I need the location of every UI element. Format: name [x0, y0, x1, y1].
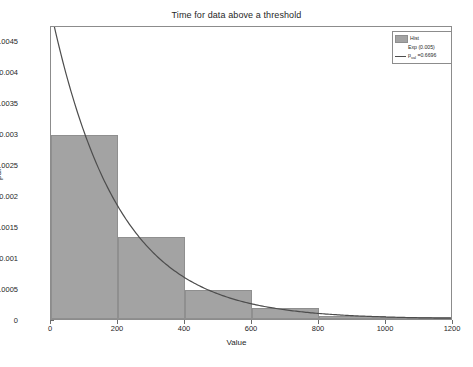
- y-axis-tick-label: 0.0005: [0, 285, 18, 294]
- legend-label-pvalue: pval =0.6696: [408, 51, 436, 62]
- legend-pvalue-suffix: =0.6696: [416, 52, 436, 58]
- x-axis-tick-label: 1200: [444, 324, 461, 333]
- plot-area: [50, 26, 452, 320]
- x-axis-tick-label: 0: [48, 324, 52, 333]
- y-axis-tick-label: 0.0015: [0, 223, 18, 232]
- x-axis-tick-mark: [117, 320, 118, 324]
- x-axis-tick-mark: [318, 320, 319, 324]
- legend-line-icon: [395, 56, 406, 57]
- y-axis-tick-label: 0.002: [0, 192, 18, 201]
- x-axis-tick-mark: [385, 320, 386, 324]
- page-title: Time for data above a threshold: [0, 10, 473, 20]
- x-axis-tick-mark: [452, 320, 453, 324]
- y-axis-tick-label: 0.0035: [0, 99, 18, 108]
- x-axis-tick-label: 200: [111, 324, 124, 333]
- y-axis-label: pdf: [0, 169, 3, 180]
- legend-item-hist: Hist: [395, 34, 449, 43]
- x-axis-tick-label: 400: [178, 324, 191, 333]
- x-axis-tick-label: 600: [245, 324, 258, 333]
- exponential-fit-curve: [51, 27, 451, 319]
- x-axis-tick-mark: [50, 320, 51, 324]
- x-axis-tick-label: 1000: [377, 324, 394, 333]
- x-axis-tick-mark: [184, 320, 185, 324]
- x-axis-tick-mark: [251, 320, 252, 324]
- plot-clip: [51, 27, 451, 319]
- y-axis-tick-label: 0: [0, 316, 18, 325]
- x-axis-tick-label: 800: [312, 324, 325, 333]
- figure: Time for data above a threshold 00.00050…: [0, 0, 473, 367]
- legend-label-hist: Hist: [410, 34, 419, 43]
- legend: Hist Exp (0.005) pval =0.6696: [392, 31, 452, 64]
- y-axis-tick-label: 0.003: [0, 130, 18, 139]
- legend-item-pvalue: pval =0.6696: [395, 52, 449, 61]
- x-axis-label: Value: [0, 338, 473, 347]
- legend-patch-icon: [395, 35, 408, 43]
- y-axis-tick-label: 0.001: [0, 254, 18, 263]
- y-axis-tick-label: 0.0045: [0, 37, 18, 46]
- y-axis-tick-label: 0.004: [0, 68, 18, 77]
